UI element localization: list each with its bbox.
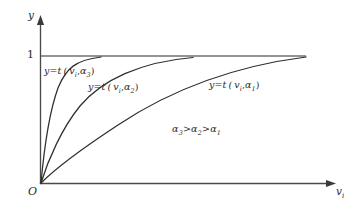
curve-label-1-suffix: ) (256, 79, 260, 90)
curve-label-3-suffix: ) (91, 65, 95, 76)
annotation-gt-1: > (183, 123, 191, 134)
origin-label: O (28, 186, 37, 197)
figure-container: y vi O 1 y=t ( vi,α3) y=t ( vi,α2) y=t (… (0, 0, 354, 213)
x-axis-arrowhead (326, 180, 336, 187)
curve-label-3-prefix: y=t ( v (44, 65, 75, 76)
curve-label-2-suffix: ) (135, 81, 139, 92)
annotation-alpha-2: α (191, 123, 198, 134)
x-axis-label-subscript: i (342, 191, 344, 200)
curve-label-2-prefix: y=t ( v (88, 81, 119, 92)
curve-label-1-prefix: y=t ( v (209, 79, 240, 90)
alpha-ordering-annotation: α3>α2>α1 (172, 124, 221, 136)
curve-label-alpha-1: y=t ( vi,α1) (209, 80, 260, 92)
y-tick-label-1: 1 (27, 49, 34, 60)
x-axis-label: vi (336, 186, 344, 199)
y-axis-label: y (28, 10, 34, 21)
annotation-alpha-1-subscript: 1 (217, 129, 221, 137)
y-axis-arrowhead (37, 15, 44, 25)
figure-canvas (0, 0, 354, 213)
curve-label-alpha-2: y=t ( vi,α2) (88, 82, 139, 94)
curve-label-alpha-3: y=t ( vi,α3) (44, 66, 95, 78)
annotation-alpha-3: α (172, 123, 179, 134)
annotation-alpha-1: α (210, 123, 217, 134)
annotation-gt-2: > (202, 123, 210, 134)
